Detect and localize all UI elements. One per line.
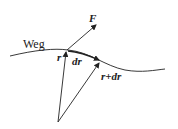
work-diagram: Weg F r dr r+dr [0,0,178,129]
position-label: r [57,51,62,63]
force-vector [67,25,96,50]
path-curve [10,49,165,71]
path-label: Weg [23,37,45,51]
new-position-label: r+dr [101,70,122,82]
displacement-label: dr [72,55,83,67]
force-label: F [88,12,97,24]
